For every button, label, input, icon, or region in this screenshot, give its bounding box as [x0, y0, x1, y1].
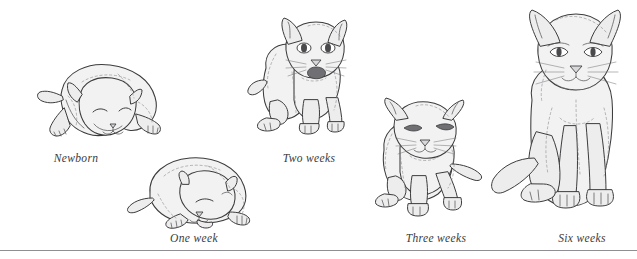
caption-six-weeks: Six weeks	[528, 232, 636, 244]
illustration-page: Newborn	[0, 0, 637, 259]
caption-two-weeks: Two weeks	[255, 152, 363, 164]
caption-three-weeks: Three weeks	[378, 232, 494, 244]
figure-one-week	[118, 150, 270, 232]
caption-newborn: Newborn	[22, 152, 130, 164]
figure-two-weeks	[246, 14, 364, 142]
figure-three-weeks	[366, 92, 488, 222]
figure-six-weeks	[490, 8, 636, 228]
caption-one-week: One week	[140, 232, 248, 244]
page-divider-rule	[0, 250, 637, 251]
figure-newborn	[22, 52, 174, 150]
